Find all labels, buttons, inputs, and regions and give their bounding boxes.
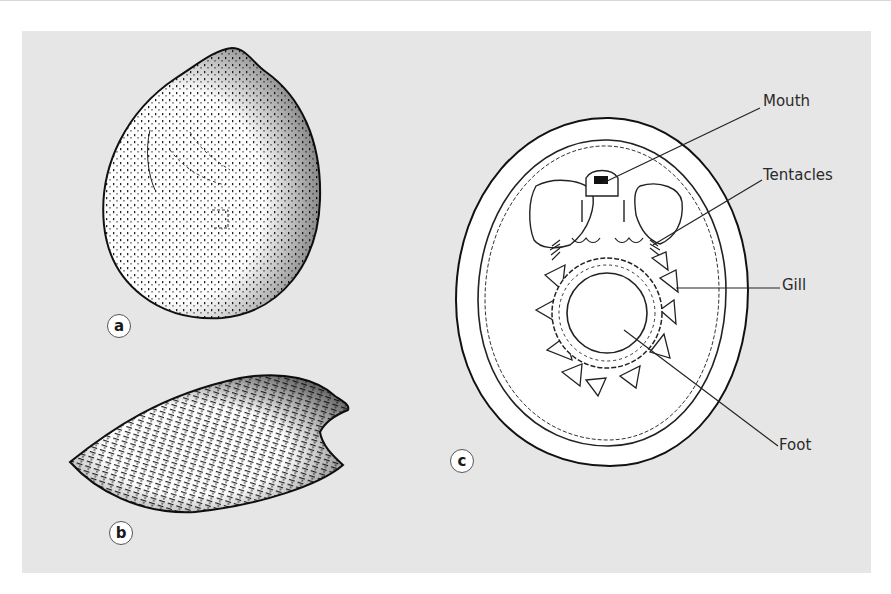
panel-badge-c-text: c: [458, 452, 467, 470]
panel-badge-b: b: [109, 521, 133, 545]
label-foot: Foot: [779, 438, 811, 453]
figure-panel: [22, 31, 871, 573]
panel-badge-a-text: a: [114, 317, 124, 335]
anatomy-c-illustration: [456, 108, 780, 466]
shell-b-illustration: [70, 375, 348, 512]
figure-illustration: [22, 31, 871, 573]
label-mouth: Mouth: [763, 94, 810, 109]
panel-badge-c: c: [450, 449, 474, 473]
label-tentacles: Tentacles: [763, 168, 833, 183]
top-rule: [0, 0, 891, 1]
panel-badge-a: a: [107, 314, 131, 338]
panel-badge-b-text: b: [116, 524, 127, 542]
shell-a-illustration: [103, 48, 320, 318]
label-gill: Gill: [782, 278, 806, 293]
